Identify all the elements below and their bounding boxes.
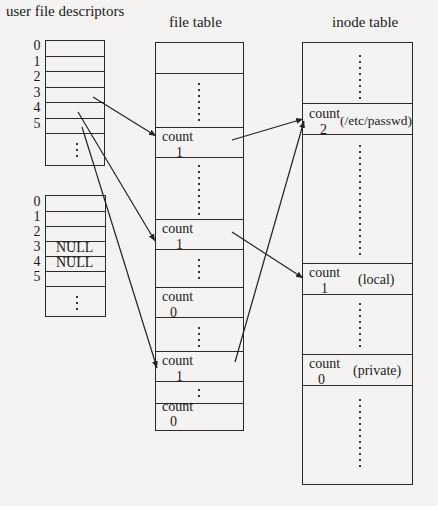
arrow-fd3-to-file0 <box>93 97 156 136</box>
pointer-arrows <box>0 0 438 506</box>
arrow-file0-to-inode0 <box>232 119 303 140</box>
arrow-fd5-to-file3 <box>82 127 157 368</box>
arrow-fd4-to-file1 <box>78 112 155 241</box>
arrow-file3-to-inode0 <box>235 121 304 362</box>
arrow-file1-to-inode1 <box>232 232 303 278</box>
